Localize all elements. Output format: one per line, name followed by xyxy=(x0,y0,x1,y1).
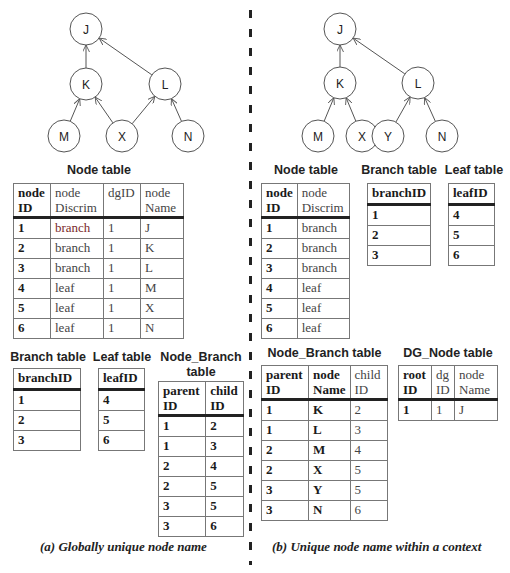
table-row: 3N6 xyxy=(262,501,388,521)
header-branch-id: branchID xyxy=(14,369,81,390)
header-node-id: nodeID xyxy=(262,184,298,218)
table-cell: leaf xyxy=(297,299,349,319)
table-cell: 2 xyxy=(206,416,244,437)
edge-X-to-L xyxy=(132,96,155,123)
table-cell: 1 xyxy=(104,279,141,299)
edge-M-to-K xyxy=(324,98,334,121)
header-child-id: childID xyxy=(350,366,388,400)
edge-X-to-K xyxy=(346,98,356,121)
table-cell: N xyxy=(309,501,351,521)
table-cell: 3 xyxy=(206,437,244,457)
caption-b: (b) Unique node name within a context xyxy=(272,539,481,555)
table-cell: branch xyxy=(51,218,104,239)
table-cell: 2 xyxy=(262,461,309,481)
table-row: 1L3 xyxy=(262,421,388,441)
edge-X-to-K xyxy=(95,97,113,123)
graph-diagrams: JKLMXN JKLMXYN xyxy=(0,0,510,160)
table-row: 4leaf xyxy=(262,279,350,299)
right-leaf-table-title: Leaf table xyxy=(443,163,505,178)
table-row: 4 xyxy=(449,205,495,226)
table-row: 1K2 xyxy=(262,400,388,421)
table-row: 6 xyxy=(449,246,495,266)
header-node-discrim: nodeDiscrim xyxy=(51,184,104,218)
table-row: 36 xyxy=(159,517,244,537)
right-dg-node-table: rootID dgID nodeName 11J xyxy=(398,365,498,421)
table-cell: J xyxy=(455,400,498,421)
table-cell: 3 xyxy=(262,501,309,521)
edge-Y-to-L xyxy=(396,97,410,122)
table-cell: 2 xyxy=(159,457,206,477)
left-branch-table: branchID 123 xyxy=(13,368,81,451)
table-row: 5 xyxy=(99,411,145,431)
table-cell: 1 xyxy=(432,400,455,421)
table-cell: 1 xyxy=(159,416,206,437)
table-cell: 3 xyxy=(262,259,298,279)
table-row: 6leaf1N xyxy=(14,319,184,339)
caption-a: (a) Globally unique node name xyxy=(40,539,207,555)
table-cell: leaf xyxy=(297,319,349,339)
edge-M-to-K xyxy=(70,99,80,122)
table-row: 1 xyxy=(14,390,81,411)
left-branch-table-title: Branch table xyxy=(8,350,88,365)
table-cell: 1 xyxy=(104,259,141,279)
left-leaf-table: leafID 456 xyxy=(98,368,145,451)
header-branch-id: branchID xyxy=(368,184,431,205)
table-cell: N xyxy=(141,319,184,339)
table-row: 25 xyxy=(159,477,244,497)
header-child-id: childID xyxy=(206,382,244,416)
table-cell: 6 xyxy=(206,517,244,537)
table-cell: 1 xyxy=(399,400,432,421)
table-row: 24 xyxy=(159,457,244,477)
table-cell: K xyxy=(141,239,184,259)
header-node-name: nodeName xyxy=(141,184,184,218)
table-cell: 2 xyxy=(350,400,388,421)
table-cell: 2 xyxy=(14,239,51,259)
table-row: 6leaf xyxy=(262,319,350,339)
header-leaf-id: leafID xyxy=(99,369,145,390)
table-cell: 2 xyxy=(14,411,81,431)
table-row: 4leaf1M xyxy=(14,279,184,299)
table-cell: J xyxy=(141,218,184,239)
table-row: 1 xyxy=(368,205,431,226)
graph-node-label: M xyxy=(313,130,323,144)
table-cell: 6 xyxy=(262,319,298,339)
graph-node-label: K xyxy=(336,77,344,91)
table-row: 12 xyxy=(159,416,244,437)
right-branch-table: branchID 123 xyxy=(367,183,431,266)
table-cell: 5 xyxy=(350,481,388,501)
left-node-branch-table: parentID childID 121324253536 xyxy=(158,381,244,537)
table-cell: leaf xyxy=(51,319,104,339)
table-cell: 4 xyxy=(449,205,495,226)
table-cell: branch xyxy=(297,259,349,279)
header-node-name: nodeName xyxy=(309,366,351,400)
table-cell: 2 xyxy=(262,239,298,259)
table-cell: X xyxy=(141,299,184,319)
edge-L-to-J xyxy=(353,38,405,74)
table-cell: 5 xyxy=(14,299,51,319)
graph-node-label: J xyxy=(337,23,343,37)
table-cell: 1 xyxy=(159,437,206,457)
table-row: 6 xyxy=(99,431,145,451)
table-cell: 3 xyxy=(350,421,388,441)
table-cell: leaf xyxy=(297,279,349,299)
right-node-table: nodeID nodeDiscrim 1branch2branch3branch… xyxy=(261,183,350,339)
table-cell: 4 xyxy=(206,457,244,477)
table-cell: 6 xyxy=(14,319,51,339)
graph-node-label: J xyxy=(83,23,89,37)
right-graph: JKLMXYN xyxy=(302,13,458,152)
table-row: 2 xyxy=(368,226,431,246)
table-cell: M xyxy=(141,279,184,299)
table-cell: 6 xyxy=(99,431,145,451)
table-row: 5leaf1X xyxy=(14,299,184,319)
table-cell: 3 xyxy=(14,431,81,451)
graph-node-label: X xyxy=(118,130,126,144)
table-cell: 1 xyxy=(262,400,309,421)
graph-node-label: X xyxy=(358,130,366,144)
table-row: 11J xyxy=(399,400,498,421)
table-cell: 1 xyxy=(104,319,141,339)
edge-N-to-L xyxy=(171,99,181,122)
header-leaf-id: leafID xyxy=(449,184,495,205)
table-row: 4 xyxy=(99,390,145,411)
table-cell: 1 xyxy=(14,390,81,411)
table-cell: 1 xyxy=(262,421,309,441)
